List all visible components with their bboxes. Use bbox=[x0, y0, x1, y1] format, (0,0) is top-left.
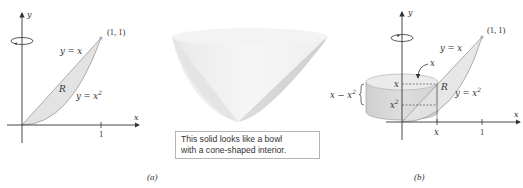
point-label-b: (1, 1) bbox=[487, 25, 506, 35]
bowl-caption: This solid looks like a bowl with a cone… bbox=[175, 131, 320, 159]
panel-label-a: (a) bbox=[147, 172, 158, 182]
curve-lower-label: y = x2 bbox=[75, 89, 102, 101]
region-label-b: R bbox=[440, 82, 448, 92]
y-axis-label-b: y bbox=[407, 8, 413, 17]
point-label: (1, 1) bbox=[107, 27, 126, 37]
radius-label: x bbox=[430, 58, 435, 68]
figure-canvas: y x 1 (1, 1) y = x R y = x2 (a) bbox=[0, 0, 523, 188]
panel-b: y x x 1 (1, 1) y = x R y = x2 x x x2 x −… bbox=[330, 8, 520, 182]
panel-label-b: (b) bbox=[414, 172, 425, 182]
curve-upper-label-b: y = x bbox=[439, 43, 462, 53]
x-axis-label-b: x bbox=[514, 110, 519, 119]
tick-x-label: x bbox=[434, 127, 439, 137]
shell-height-brace bbox=[359, 84, 364, 105]
point-1-1-b bbox=[480, 35, 483, 38]
point-1-1 bbox=[99, 36, 102, 39]
caption-line-2: with a cone-shaped interior. bbox=[181, 145, 314, 156]
bowl-rim bbox=[172, 28, 328, 46]
panel-a: y x 1 (1, 1) y = x R y = x2 (a) bbox=[7, 10, 158, 182]
region-label: R bbox=[58, 84, 66, 94]
curve-upper-label: y = x bbox=[59, 46, 82, 56]
shell-height-label: x − x2 bbox=[330, 88, 356, 100]
tick-1-label-b: 1 bbox=[480, 127, 484, 137]
curve-lower-label-b: y = x2 bbox=[454, 86, 481, 98]
caption-line-1: This solid looks like a bowl bbox=[181, 134, 314, 145]
x-axis-label: x bbox=[134, 113, 139, 122]
y-axis-label: y bbox=[26, 10, 32, 19]
bowl-solid bbox=[172, 28, 328, 122]
top-height-label: x bbox=[394, 79, 399, 89]
tick-1-label: 1 bbox=[99, 129, 103, 139]
